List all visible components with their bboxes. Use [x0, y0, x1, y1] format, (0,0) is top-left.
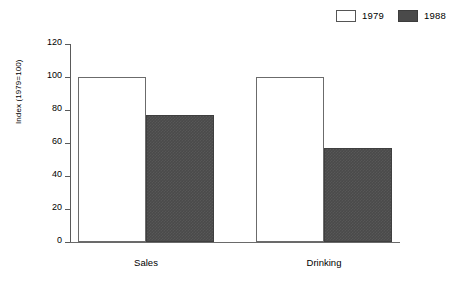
y-tick-label-100: 100 [47, 71, 62, 80]
x-axis-line [70, 242, 400, 243]
bar-series-container [70, 44, 400, 242]
legend-swatch-dark-square [398, 10, 418, 22]
bar-drinking-1988 [324, 148, 392, 242]
chart-legend: 1979 1988 [336, 10, 446, 22]
y-tick-0: 0 [65, 242, 70, 243]
bar-sales-1988 [146, 115, 214, 242]
legend-entry-1979: 1979 [336, 10, 384, 22]
bar-sales-1979 [78, 77, 146, 242]
y-tick-label-80: 80 [52, 104, 62, 113]
y-tick-label-120: 120 [47, 38, 62, 47]
x-category-label-sales: Sales [134, 258, 158, 268]
y-tick-label-20: 20 [52, 203, 62, 212]
plot-area: 120 100 80 60 40 20 0 [70, 44, 400, 242]
bar-chart: 1979 1988 Index (1979=100) 120 100 80 60… [0, 0, 458, 284]
x-category-label-drinking: Drinking [307, 258, 342, 268]
legend-label-1979: 1979 [362, 11, 384, 21]
bar-drinking-1979 [256, 77, 324, 242]
y-tick-label-40: 40 [52, 170, 62, 179]
legend-entry-1988: 1988 [398, 10, 446, 22]
y-axis-title: Index (1979=100) [14, 24, 23, 124]
legend-label-1988: 1988 [424, 11, 446, 21]
y-tick-label-0: 0 [57, 236, 62, 245]
legend-swatch-white-square [336, 10, 356, 22]
y-tick-label-60: 60 [52, 137, 62, 146]
